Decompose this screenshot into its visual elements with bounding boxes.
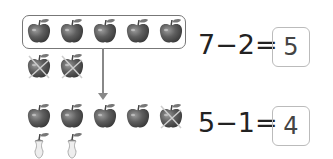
apple-icon	[59, 102, 85, 130]
apple-icon	[158, 17, 184, 45]
apple-icon	[26, 102, 52, 130]
apple-core-icon	[26, 131, 52, 159]
answer-box-2[interactable]: 4	[272, 106, 310, 146]
crossed-apple-icon	[158, 102, 184, 130]
apple-icon	[125, 17, 151, 45]
equation-2: 5−1=	[198, 107, 278, 138]
apple-core-icon	[59, 131, 85, 159]
apple-icon	[59, 17, 85, 45]
apple-icon	[26, 17, 52, 45]
apple-icon	[92, 102, 118, 130]
apple-icon	[125, 102, 151, 130]
apple-icon	[92, 17, 118, 45]
equation-1: 7−2=	[198, 29, 278, 60]
crossed-apple-icon	[26, 52, 52, 80]
connector-line	[102, 48, 104, 96]
crossed-apple-icon	[59, 52, 85, 80]
answer-box-1[interactable]: 5	[272, 27, 310, 67]
arrow-down-icon	[98, 93, 108, 100]
